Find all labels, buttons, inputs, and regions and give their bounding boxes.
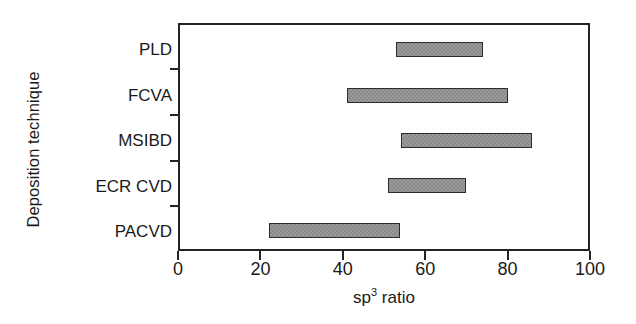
x-axis-title-tail: ratio bbox=[377, 288, 415, 307]
range-bar-msibd bbox=[401, 133, 533, 148]
range-bar-ecr-cvd bbox=[388, 178, 466, 193]
y-axis-tick-label-pld: PLD bbox=[0, 41, 172, 58]
x-axis-tick-label-0: 0 bbox=[148, 259, 208, 280]
x-axis-tick-label-100: 100 bbox=[560, 259, 620, 280]
range-bar-pld bbox=[396, 42, 483, 57]
y-axis-tick-label-msibd: MSIBD bbox=[0, 132, 172, 149]
x-axis-tick-label-20: 20 bbox=[230, 259, 290, 280]
range-bar-pacvd bbox=[269, 223, 401, 238]
x-axis-tick-label-60: 60 bbox=[395, 259, 455, 280]
y-axis-tick-label-ecr-cvd: ECR CVD bbox=[0, 178, 172, 195]
range-bar-fcva bbox=[347, 88, 508, 103]
x-axis-title-base: sp bbox=[353, 288, 371, 307]
x-axis-tick-label-40: 40 bbox=[313, 259, 373, 280]
y-axis-tick-label-fcva: FCVA bbox=[0, 87, 172, 104]
x-axis-title: sp3 ratio bbox=[178, 288, 590, 308]
y-axis-tick-label-pacvd: PACVD bbox=[0, 223, 172, 240]
chart-figure: Deposition technique PLD FCVA MSIBD ECR … bbox=[0, 0, 636, 324]
x-axis-tick-label-80: 80 bbox=[478, 259, 538, 280]
